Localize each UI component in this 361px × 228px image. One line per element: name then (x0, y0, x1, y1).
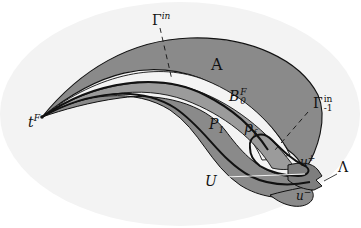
label-gamma-minus1-in: Γin-1 (313, 95, 333, 113)
label-pf: pf (244, 120, 256, 138)
label-Lambda: Λ (338, 160, 348, 174)
label-u-minus: u− (296, 188, 311, 202)
label-P1: P1 (209, 117, 224, 135)
label-tF: tF (28, 114, 40, 129)
label-U: U (205, 174, 217, 188)
label-gamma-in: Γin (152, 12, 170, 27)
tF-point (40, 115, 44, 119)
label-A: A (211, 57, 223, 73)
label-u-plus: u+ (300, 154, 315, 168)
diagram-canvas: Γin A BF0 Γin-1 tF P1 pf u+ Λ U u− (0, 0, 361, 228)
label-B0F: BF0 (229, 88, 247, 106)
